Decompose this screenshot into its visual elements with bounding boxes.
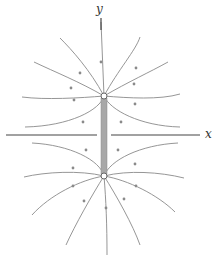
y-axis-label: y	[96, 2, 103, 16]
x-axis-label: x	[205, 127, 212, 141]
upper-node	[101, 93, 107, 99]
connector-bar	[101, 98, 107, 174]
diagram-svg	[0, 0, 219, 258]
lower-node	[101, 173, 107, 179]
field-diagram: y x	[0, 0, 219, 258]
